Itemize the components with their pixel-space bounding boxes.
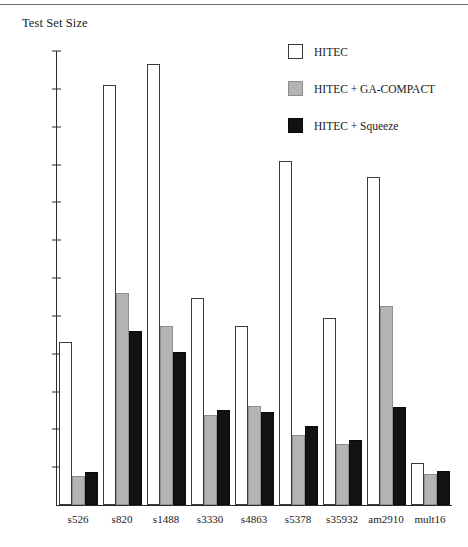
bar-s3330-white (191, 298, 204, 505)
bar-group-s526 (59, 50, 98, 505)
x-axis-label-s5378: s5378 (285, 513, 311, 525)
bar-s820-black (129, 331, 142, 505)
bar-mult16-white (411, 463, 424, 505)
x-axis-label-s526: s526 (68, 513, 89, 525)
bar-am2910-gray (380, 306, 393, 505)
chart-legend: HITECHITEC + GA-COMPACTHITEC + Squeeze (288, 44, 435, 155)
bar-s5378-gray (292, 435, 305, 505)
x-axis-baseline (56, 505, 452, 506)
bar-s526-black (85, 472, 98, 505)
bar-mult16-black (437, 471, 450, 505)
bar-group-s3330 (191, 50, 230, 505)
bar-s820-white (103, 85, 116, 505)
legend-item-2: HITEC + Squeeze (288, 118, 435, 133)
legend-swatch-gray (288, 81, 303, 96)
bar-s4863-gray (248, 406, 261, 506)
x-axis-label-s1488: s1488 (153, 513, 179, 525)
legend-swatch-black (288, 118, 303, 133)
bar-group-s4863 (235, 50, 274, 505)
bar-s4863-white (235, 326, 248, 505)
bar-s5378-white (279, 161, 292, 505)
bar-mult16-gray (424, 474, 437, 505)
x-axis-label-s820: s820 (112, 513, 133, 525)
bar-s1488-black (173, 352, 186, 505)
x-axis-label-s4863: s4863 (241, 513, 267, 525)
bar-s526-white (59, 342, 72, 505)
bar-s820-gray (116, 293, 129, 505)
bar-s5378-black (305, 426, 318, 505)
bar-s35932-white (323, 318, 336, 505)
bar-group-s820 (103, 50, 142, 505)
legend-label: HITEC + Squeeze (314, 120, 398, 132)
legend-item-0: HITEC (288, 44, 435, 59)
y-axis-line (56, 51, 57, 506)
legend-item-1: HITEC + GA-COMPACT (288, 81, 435, 96)
x-axis-label-s3330: s3330 (197, 513, 223, 525)
x-axis-label-mult16: mult16 (414, 513, 445, 525)
bar-group-s1488 (147, 50, 186, 505)
bar-s1488-white (147, 64, 160, 505)
bar-s3330-black (217, 410, 230, 505)
legend-label: HITEC (314, 46, 348, 58)
bar-s1488-gray (160, 326, 173, 505)
x-axis-label-s35932: s35932 (326, 513, 358, 525)
bar-am2910-black (393, 407, 406, 505)
legend-swatch-white (288, 44, 303, 59)
bar-am2910-white (367, 177, 380, 505)
bar-s526-gray (72, 476, 85, 506)
bar-s4863-black (261, 412, 274, 505)
bar-s35932-gray (336, 444, 349, 505)
x-axis-label-am2910: am2910 (368, 513, 403, 525)
bar-s3330-gray (204, 415, 217, 505)
legend-label: HITEC + GA-COMPACT (314, 83, 435, 95)
bar-s35932-black (349, 440, 362, 505)
